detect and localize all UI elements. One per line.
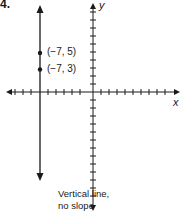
y-axis-up-arrow-icon [90, 3, 96, 9]
x-axis-left-arrow-icon [6, 89, 12, 95]
point-label-2: (−7, 3) [47, 63, 76, 74]
coordinate-plane [0, 0, 182, 216]
caption-line-2: no slope [58, 200, 109, 212]
line-up-arrow-icon [37, 5, 44, 13]
caption: Vertical line, no slope [58, 188, 109, 212]
point-label-1: (−7, 5) [47, 46, 76, 57]
y-axis-label: y [99, 0, 105, 11]
point-neg7-5 [38, 51, 42, 55]
x-axis-right-arrow-icon [174, 89, 180, 95]
x-axis-label: x [173, 96, 179, 108]
caption-line-1: Vertical line, [58, 188, 109, 200]
line-down-arrow-icon [37, 173, 44, 181]
point-neg7-3 [38, 67, 42, 71]
